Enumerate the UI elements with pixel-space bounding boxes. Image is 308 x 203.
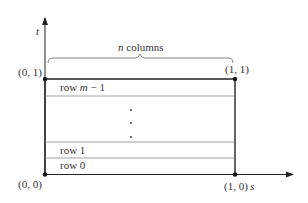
row-label-top: row m − 1 xyxy=(60,81,105,93)
corner-dot-bottom-left xyxy=(43,172,47,176)
row-top-var: m xyxy=(80,81,88,93)
corner-dot-top-right xyxy=(233,77,237,81)
corner-label-bottom-left: (0, 0) xyxy=(18,178,42,191)
ellipsis-dot-2 xyxy=(130,122,132,124)
row-label-1: row 1 xyxy=(60,144,85,156)
corner-dot-top-left xyxy=(43,77,47,81)
row-top-suffix: − 1 xyxy=(88,81,105,93)
grid-diagram: t s n columns row m − 1 row 1 row 0 (0, … xyxy=(0,0,308,203)
t-axis-label: t xyxy=(36,25,40,37)
corner-label-top-left: (0, 1) xyxy=(18,66,42,79)
row-top-prefix: row xyxy=(60,81,80,93)
s-axis-label: s xyxy=(250,180,254,192)
row-label-0: row 0 xyxy=(60,159,86,171)
columns-label: n columns xyxy=(118,41,164,53)
columns-text: columns xyxy=(124,41,164,53)
corner-label-top-right: (1, 1) xyxy=(225,63,249,76)
ellipsis-dot-3 xyxy=(130,136,132,138)
corner-label-bottom-right: (1, 0) xyxy=(224,180,248,193)
ellipsis-dot-1 xyxy=(130,109,132,111)
columns-brace xyxy=(48,54,233,63)
corner-dot-bottom-right xyxy=(233,172,237,176)
